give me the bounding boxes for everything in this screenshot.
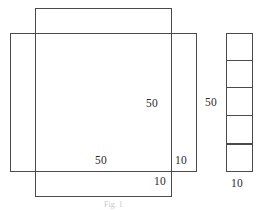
strip-cell — [226, 87, 253, 116]
label-right-50: 50 — [146, 97, 158, 109]
label-right-10: 10 — [175, 154, 187, 166]
stacked-strip — [226, 33, 253, 172]
label-bottom-50: 50 — [95, 154, 107, 166]
figure-caption: Fig. 1 — [104, 200, 123, 209]
strip-cell — [226, 115, 253, 144]
figure-canvas: 50 50 10 10 50 10 Fig. 1 — [0, 0, 261, 210]
label-bottom-10: 10 — [154, 175, 166, 187]
strip-cell — [226, 33, 253, 61]
strip-cell — [226, 60, 253, 88]
label-strip-10: 10 — [231, 177, 243, 189]
lower-square — [10, 33, 197, 172]
strip-cell — [226, 144, 253, 172]
label-strip-50: 50 — [205, 96, 217, 108]
